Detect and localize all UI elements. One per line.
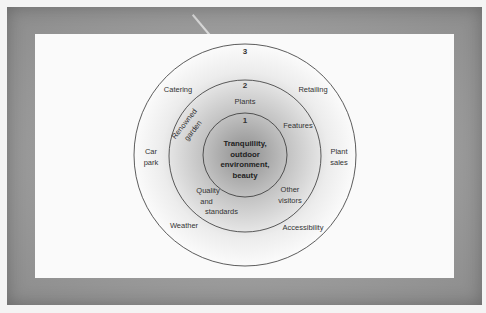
ring-2-number: 2 (240, 81, 250, 92)
core-line-2: outdoor (205, 150, 285, 161)
label-other-visitors: Other visitors (272, 185, 308, 206)
quality-line-3: standards (205, 207, 233, 218)
core-line-3: environment, (205, 160, 285, 171)
label-quality-standards: Quality and standards (183, 186, 233, 218)
core-label: Tranquillity, outdoor environment, beaut… (205, 139, 285, 181)
label-retailing: Retailing (293, 85, 333, 96)
ring-1-number: 1 (240, 116, 250, 127)
quality-line-1: Quality (183, 186, 233, 197)
label-features: Features (276, 121, 320, 132)
carpark-line-2: park (139, 158, 163, 169)
label-weather: Weather (164, 221, 204, 232)
ring-3-number: 3 (240, 47, 250, 58)
label-catering: Catering (158, 85, 198, 96)
plantsales-line-2: sales (327, 158, 351, 169)
carpark-line-1: Car (139, 147, 163, 158)
label-accessibility: Accessibility (278, 223, 328, 234)
label-plant-sales: Plant sales (327, 147, 351, 168)
quality-line-2: and (180, 197, 233, 208)
core-line-1: Tranquillity, (205, 139, 285, 150)
other-line-2: visitors (272, 196, 308, 207)
other-line-1: Other (272, 185, 308, 196)
label-car-park: Car park (139, 147, 163, 168)
core-line-4: beauty (205, 171, 285, 182)
label-plants: Plants (225, 97, 265, 108)
plantsales-line-1: Plant (327, 147, 351, 158)
